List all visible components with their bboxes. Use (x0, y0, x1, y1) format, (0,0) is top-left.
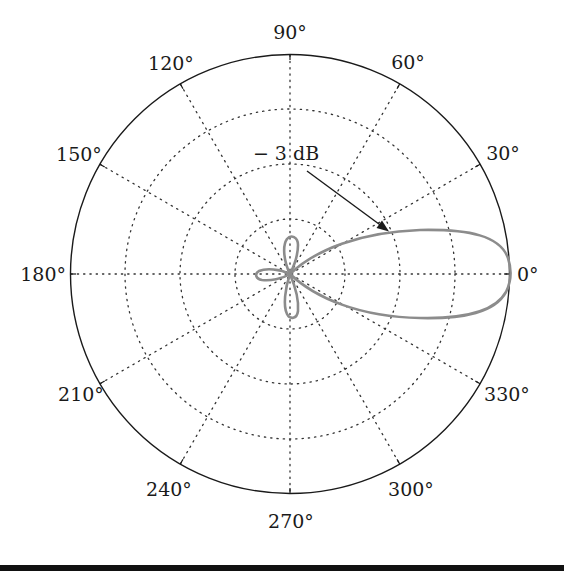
radiation-pattern (256, 230, 510, 318)
minus-3db-annotation: − 3 dB (253, 142, 389, 232)
polar-chart: − 3 dB 0° 30° 60° 90° 120° 150° 180° 210… (0, 0, 564, 572)
angle-label-330: 330° (484, 383, 530, 405)
bottom-rule-divider (0, 565, 564, 571)
angle-label-0: 0° (517, 263, 539, 285)
angle-label-90: 90° (273, 21, 307, 43)
angle-label-210: 210° (58, 383, 104, 405)
angle-label-60: 60° (391, 51, 425, 73)
back-lobe (256, 269, 290, 280)
angle-label-120: 120° (148, 52, 194, 74)
angle-label-180: 180° (20, 263, 66, 285)
angle-label-30: 30° (486, 142, 520, 164)
angle-label-270: 270° (268, 510, 314, 532)
angle-label-300: 300° (388, 478, 434, 500)
annotation-label: − 3 dB (253, 142, 319, 164)
angle-label-150: 150° (56, 143, 102, 165)
angle-labels: 0° 30° 60° 90° 120° 150° 180° 210° 240° … (20, 21, 538, 532)
angle-label-240: 240° (146, 478, 192, 500)
